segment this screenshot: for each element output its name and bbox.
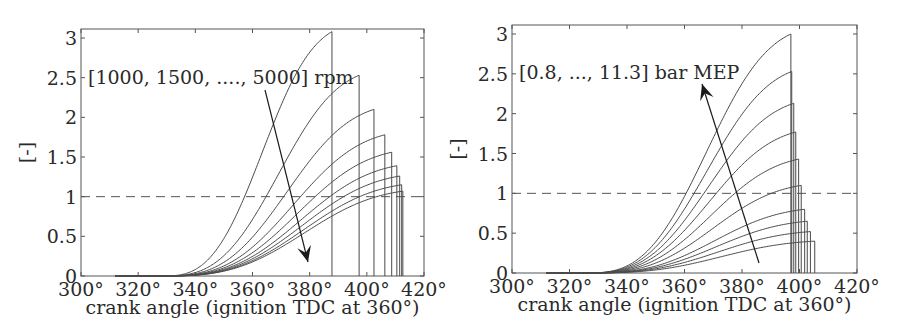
data-curve (547, 159, 799, 273)
y-tick-label: 2.5 (478, 63, 508, 85)
y-tick-label: 1.5 (478, 143, 508, 165)
data-curve (547, 103, 794, 273)
data-curve (547, 209, 805, 273)
y-axis-label: [-] (15, 142, 37, 163)
annotation-arrow (265, 90, 308, 262)
chart-left-panel: 00.511.522.53300°320°340°360°380°400°420… (15, 27, 447, 318)
data-curve (115, 176, 399, 276)
y-tick-label: 2.5 (47, 67, 77, 89)
figure: 00.511.522.53300°320°340°360°380°400°420… (0, 0, 898, 333)
data-curve (115, 191, 403, 276)
annotation-text: [1000, 1500, ...., 5000] rpm (88, 66, 354, 88)
annotation-text: [0.8, ..., 11.3] bar MEP (519, 61, 740, 83)
annotation-arrow (702, 84, 759, 263)
data-curve (115, 152, 391, 276)
data-curve (547, 132, 796, 273)
y-axis-label: [-] (446, 138, 468, 159)
y-tick-label: 3 (496, 23, 508, 45)
y-tick-label: 0.5 (47, 225, 77, 247)
chart-right-panel: 00.511.522.53300°320°340°360°380°400°420… (446, 23, 880, 315)
data-curve (547, 221, 808, 273)
x-axis-label: crank angle (ignition TDC at 360°) (86, 296, 420, 318)
data-curve (115, 75, 359, 276)
y-tick-label: 2 (496, 103, 508, 125)
y-tick-label: 2 (65, 106, 77, 128)
y-tick-label: 1 (496, 182, 508, 204)
y-tick-label: 1 (65, 186, 77, 208)
y-tick-label: 3 (65, 27, 77, 49)
data-curve (547, 71, 792, 273)
y-tick-label: 0.5 (478, 222, 508, 244)
x-axis-label: crank angle (ignition TDC at 360°) (518, 293, 852, 315)
y-tick-label: 1.5 (47, 146, 77, 168)
